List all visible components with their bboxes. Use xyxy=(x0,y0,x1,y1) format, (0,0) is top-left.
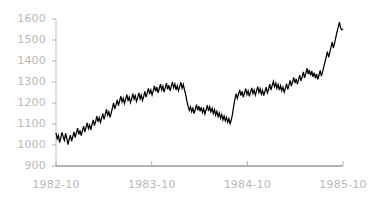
y-tick-label: 1200 xyxy=(6,97,46,108)
y-tick-marks xyxy=(52,19,56,166)
x-tick-label: 1983-10 xyxy=(117,179,187,190)
x-tick-label: 1985-10 xyxy=(308,179,376,190)
y-tick-label: 1100 xyxy=(6,118,46,129)
y-tick-label: 900 xyxy=(6,160,46,171)
chart-plot-area xyxy=(0,0,376,202)
x-tick-label: 1982-10 xyxy=(21,179,91,190)
y-tick-label: 1400 xyxy=(6,55,46,66)
x-tick-label: 1984-10 xyxy=(212,179,282,190)
y-tick-label: 1500 xyxy=(6,34,46,45)
y-tick-label: 1000 xyxy=(6,139,46,150)
axes-group xyxy=(52,19,343,166)
y-tick-label: 1300 xyxy=(6,76,46,87)
chart-container: 9001000110012001300140015001600 1982-101… xyxy=(0,0,376,202)
data-line-series xyxy=(56,22,343,144)
y-tick-label: 1600 xyxy=(6,13,46,24)
